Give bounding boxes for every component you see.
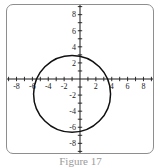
- x-axis-tick-label: -8: [13, 82, 20, 91]
- x-axis-tick-label: -2: [61, 82, 68, 91]
- figure-caption: Figure 17: [0, 155, 161, 168]
- y-axis-tick-label: 4: [72, 43, 76, 52]
- y-axis-tick-label: -4: [69, 107, 76, 116]
- x-axis-tick-label: 8: [141, 82, 145, 91]
- figure-container: -8-6-4-224688642-2-4-6-8 Figure 17: [0, 0, 161, 168]
- x-axis-tick-label: -4: [45, 82, 52, 91]
- coordinate-plane-chart: -8-6-4-224688642-2-4-6-8: [7, 5, 153, 153]
- x-axis-tick-label: 6: [126, 82, 130, 91]
- plot-frame: -8-6-4-224688642-2-4-6-8: [6, 4, 154, 154]
- y-axis-tick-label: 2: [72, 59, 76, 68]
- y-axis-tick-label: 8: [72, 10, 76, 19]
- y-axis-tick-label: -8: [69, 139, 76, 148]
- y-axis-tick-label: -6: [69, 123, 76, 132]
- y-axis-tick-label: 6: [72, 27, 76, 36]
- y-axis-tick-label: -2: [69, 91, 76, 100]
- x-axis-tick-label: 2: [94, 82, 98, 91]
